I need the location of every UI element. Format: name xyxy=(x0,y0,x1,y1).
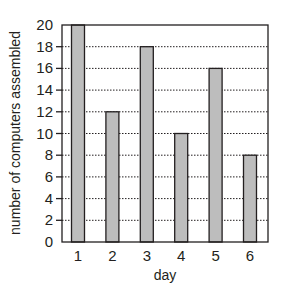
x-tick-label: 1 xyxy=(74,247,82,264)
y-axis-ticks: 02468101214161820 xyxy=(36,16,62,250)
gridlines xyxy=(62,47,268,221)
y-tick-label: 2 xyxy=(45,211,53,228)
y-tick-label: 8 xyxy=(45,146,53,163)
y-tick-label: 18 xyxy=(36,38,53,55)
y-tick-label: 4 xyxy=(45,190,53,207)
x-tick-label: 3 xyxy=(143,247,151,264)
y-tick-label: 6 xyxy=(45,168,53,185)
x-axis-title: day xyxy=(154,267,177,283)
y-axis-title: number of computers assembled xyxy=(7,31,23,235)
x-tick-label: 2 xyxy=(108,247,116,264)
x-tick-label: 5 xyxy=(211,247,219,264)
x-tick-label: 4 xyxy=(177,247,185,264)
y-tick-label: 16 xyxy=(36,59,53,76)
bar-day-4 xyxy=(175,134,188,243)
y-tick-label: 14 xyxy=(36,81,53,98)
bar-day-1 xyxy=(72,25,85,242)
y-tick-label: 0 xyxy=(45,233,53,250)
x-tick-label: 6 xyxy=(246,247,254,264)
y-tick-label: 12 xyxy=(36,103,53,120)
y-tick-label: 10 xyxy=(36,125,53,142)
bar-day-2 xyxy=(106,112,119,242)
y-tick-label: 20 xyxy=(36,16,53,33)
x-axis-ticks: 123456 xyxy=(74,247,254,264)
bar-day-3 xyxy=(140,47,153,242)
bar-day-6 xyxy=(244,155,257,242)
bar-chart: 02468101214161820 123456 day number of c… xyxy=(0,0,283,296)
bar-day-5 xyxy=(209,68,222,242)
